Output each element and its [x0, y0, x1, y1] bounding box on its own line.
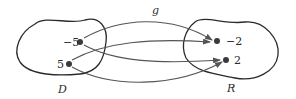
range-point-2-label: 2 [234, 54, 241, 67]
function-mapping-diagram: −5 5 −2 2 g D R [0, 0, 296, 99]
range-set-R [183, 19, 278, 78]
domain-point-5-label: 5 [57, 58, 64, 71]
range-label-R: R [226, 82, 235, 95]
arrow-5-to-2 [72, 62, 222, 82]
arrow-5-to-neg2 [72, 41, 210, 60]
domain-label-D: D [57, 83, 67, 96]
range-point-2 [223, 57, 229, 63]
range-point-neg2 [214, 38, 220, 44]
domain-point-5 [66, 61, 72, 67]
domain-point-neg5-label: −5 [63, 36, 79, 49]
range-point-neg2-label: −2 [226, 35, 242, 48]
function-label-g: g [152, 4, 159, 17]
